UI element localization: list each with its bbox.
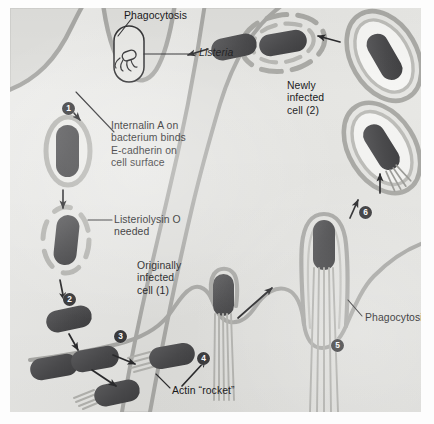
label-phagocytosis-top: Phagocytosis [124, 10, 187, 22]
bacterium [313, 220, 335, 270]
vacuole-outline [114, 26, 144, 82]
step-badge-4: 4 [197, 352, 210, 365]
diagram-panel: Phagocytosis Listeria Internalin A on ba… [10, 8, 421, 412]
step-badge-6: 6 [359, 206, 372, 219]
label-originally-infected-cell: Originally infected cell (1) [137, 260, 181, 297]
phagocytic-vacuole-step1 [114, 26, 144, 82]
label-listeriolysin-o: Listeriolysin O needed [114, 214, 181, 239]
step-badge-2: 2 [63, 293, 76, 306]
label-phagocytosis-right: Phagocytosis [365, 312, 421, 324]
label-internalin-a: Internalin A on bacterium binds E-cadher… [111, 120, 186, 170]
label-listeria: Listeria [199, 47, 233, 59]
label-actin-rocket: Actin “rocket” [172, 385, 235, 397]
step-badge-3: 3 [114, 330, 127, 343]
vacuole-intact-step1 [46, 117, 90, 185]
bacterium [213, 274, 234, 316]
label-newly-infected-cell: Newly infected cell (2) [287, 80, 324, 117]
step-badge-1: 1 [62, 102, 75, 115]
figure-canvas: Phagocytosis Listeria Internalin A on ba… [0, 0, 434, 424]
bacterium [56, 125, 79, 177]
step-badge-5: 5 [331, 339, 344, 352]
